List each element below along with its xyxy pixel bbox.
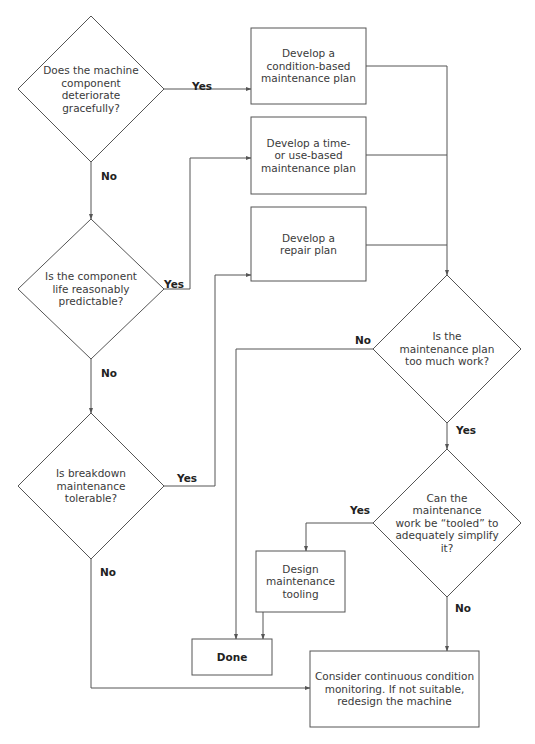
node-text-q-deteriorate: Does the machine component deteriorate g… xyxy=(38,53,143,126)
edge-label-yes: Yes xyxy=(164,278,184,290)
node-text-q-tooled: Can the maintenance work be “tooled” to … xyxy=(394,486,501,560)
edge-label-no: No xyxy=(101,367,117,379)
flowchart-canvas: YesNoYesNoYesNoNoYesYesNoDoes the machin… xyxy=(0,0,535,744)
node-text-p-tooling: Design maintenance tooling xyxy=(256,551,345,612)
node-text-q-breakdown: Is breakdown maintenance tolerable? xyxy=(38,450,143,523)
edge-label-no: No xyxy=(100,566,116,578)
edge-label-yes: Yes xyxy=(350,504,370,516)
connector-p_condition-to-q_too_much xyxy=(366,66,447,275)
edge-label-yes: Yes xyxy=(177,472,197,484)
edge-label-yes: Yes xyxy=(456,424,476,436)
node-text-p-monitoring: Consider continuous condition monitoring… xyxy=(310,651,479,727)
node-text-p-repair: Develop a repair plan xyxy=(251,207,366,281)
node-text-t-done: Done xyxy=(192,639,272,675)
connector-q_tooled-to-p_tooling xyxy=(306,523,373,551)
node-text-q-predictable: Is the component life reasonably predict… xyxy=(38,254,143,324)
edge-label-yes: Yes xyxy=(192,80,212,92)
node-text-q-too-much: Is the maintenance plan too much work? xyxy=(394,312,501,386)
node-text-p-time: Develop a time- or use-based maintenance… xyxy=(251,117,366,194)
connector-q_breakdown-to-p_repair xyxy=(164,275,251,486)
node-text-p-condition: Develop a condition-based maintenance pl… xyxy=(251,28,366,104)
connector-q_predictable-to-p_time xyxy=(164,158,251,289)
edge-label-no: No xyxy=(455,602,471,614)
edge-label-no: No xyxy=(355,334,371,346)
edge-label-no: No xyxy=(101,170,117,182)
